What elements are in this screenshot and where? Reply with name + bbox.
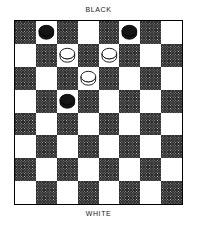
white-piece-r1-c2[interactable] bbox=[59, 47, 76, 63]
white-piece-r2-c3[interactable] bbox=[80, 70, 97, 86]
black-piece-r3-c2[interactable] bbox=[59, 93, 76, 109]
black-piece-r0-c5[interactable] bbox=[121, 24, 138, 40]
pieces-layer bbox=[15, 21, 182, 204]
white-side-label: WHITE bbox=[0, 210, 197, 217]
black-side-label: BLACK bbox=[0, 6, 197, 13]
white-piece-r1-c4[interactable] bbox=[101, 47, 118, 63]
checkers-diagram: BLACK WHITE bbox=[0, 0, 197, 225]
checkers-board[interactable] bbox=[14, 20, 183, 205]
black-piece-r0-c1[interactable] bbox=[38, 24, 55, 40]
